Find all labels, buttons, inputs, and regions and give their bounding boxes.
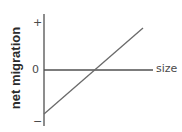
x-axis-label: size [156,63,177,74]
y-tick-minus: − [33,116,42,127]
y-axis-label: net migration [8,27,23,109]
y-tick-plus: + [33,17,42,28]
migration-size-diagram: net migration + 0 − size [0,0,182,132]
plot-area [0,0,182,132]
y-tick-zero: 0 [32,64,39,75]
net-migration-line [44,28,143,114]
